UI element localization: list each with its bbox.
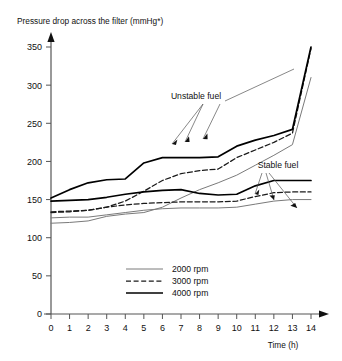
x-tick-label: 0	[48, 323, 53, 333]
legend-label-3000-rpm: 3000 rpm	[172, 276, 208, 286]
x-tick-label: 5	[141, 323, 146, 333]
y-tick-label: 100	[27, 233, 42, 243]
chart-canvas: Pressure drop across the filter (mmHg*) …	[0, 0, 342, 361]
x-tick-label: 7	[178, 323, 183, 333]
y-tick-label: 0	[37, 309, 42, 319]
legend: 2000 rpm3000 rpm4000 rpm	[126, 264, 208, 298]
x-axis-label: Time (h)	[268, 340, 299, 350]
x-tick-label: 10	[232, 323, 242, 333]
y-tick-label: 350	[27, 42, 42, 52]
x-axis: 01234567891011121314	[44, 310, 329, 333]
y-tick-label: 50	[32, 271, 42, 281]
x-tick-label: 3	[104, 323, 109, 333]
y-axis: 050100150200250300350	[27, 32, 55, 319]
x-tick-label: 11	[251, 323, 260, 333]
legend-label-4000-rpm: 4000 rpm	[172, 288, 208, 298]
stable-fuel-label: Stable fuel	[258, 160, 299, 170]
x-tick-label: 8	[197, 323, 202, 333]
pressure-drop-chart: Pressure drop across the filter (mmHg*) …	[0, 0, 342, 361]
x-tick-label: 14	[306, 323, 316, 333]
y-tick-label: 150	[27, 195, 42, 205]
y-tick-label: 250	[27, 119, 42, 129]
x-tick-label: 13	[287, 323, 297, 333]
unstable-fuel-annotation: Unstable fuel	[171, 69, 294, 145]
x-tick-label: 2	[86, 323, 91, 333]
x-tick-label: 9	[216, 323, 221, 333]
x-tick-label: 6	[160, 323, 165, 333]
unstable-fuel-label: Unstable fuel	[171, 91, 221, 101]
y-tick-group: 050100150200250300350	[27, 42, 51, 319]
y-tick-label: 200	[27, 157, 42, 167]
series-line-unstable-4000	[51, 47, 311, 198]
x-tick-label: 12	[269, 323, 279, 333]
x-tick-label: 4	[123, 323, 128, 333]
series-line-unstable-3000	[51, 49, 311, 213]
chart-title: Pressure drop across the filter (mmHg*)	[17, 16, 163, 26]
legend-label-2000-rpm: 2000 rpm	[172, 264, 208, 274]
y-tick-label: 300	[27, 81, 42, 91]
x-tick-label: 1	[67, 323, 72, 333]
x-tick-group: 01234567891011121314	[48, 314, 316, 333]
